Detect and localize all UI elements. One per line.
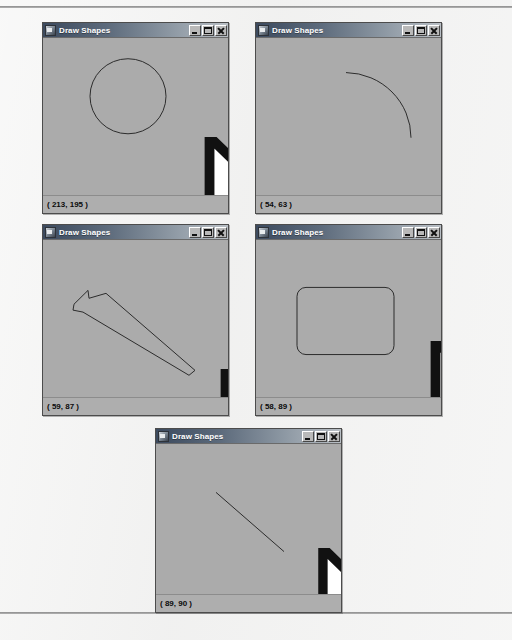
titlebar[interactable]: Draw Shapes [156,429,341,444]
window-controls [189,227,227,238]
close-icon[interactable] [215,25,227,36]
coordinates-label: ( 59, 87 ) [43,398,79,415]
mouse-cursor [409,134,441,196]
drawing-canvas[interactable] [256,241,441,398]
window-title: Draw Shapes [59,23,189,38]
window-controls [302,431,340,442]
coordinates-label: ( 54, 63 ) [256,196,292,213]
window-title: Draw Shapes [272,225,402,240]
maximize-icon[interactable] [315,431,327,442]
shape-polygon [73,290,195,375]
coordinates-label: ( 89, 90 ) [156,595,192,612]
statusbar: ( 54, 63 ) [256,195,441,213]
shape-line [216,492,284,551]
titlebar[interactable]: Draw Shapes [256,23,441,38]
window-title: Draw Shapes [172,429,302,444]
mouse-cursor [171,137,228,196]
drawing-canvas[interactable] [256,39,441,196]
statusbar: ( 58, 89 ) [256,397,441,415]
minimize-icon[interactable] [302,431,314,442]
close-icon[interactable] [428,227,440,238]
close-icon[interactable] [215,227,227,238]
window-circle[interactable]: Draw Shapes ( 213, 195 ) [42,22,229,214]
maximize-icon[interactable] [415,25,427,36]
titlebar[interactable]: Draw Shapes [43,225,228,240]
maximize-icon[interactable] [415,227,427,238]
statusbar: ( 89, 90 ) [156,594,341,612]
minimize-icon[interactable] [189,227,201,238]
drawing-canvas[interactable] [43,241,228,398]
app-icon [45,227,56,238]
window-arc[interactable]: Draw Shapes ( 54, 63 ) [255,22,442,214]
window-title: Draw Shapes [59,225,189,240]
maximize-icon[interactable] [202,25,214,36]
mouse-cursor [397,341,441,398]
minimize-icon[interactable] [402,25,414,36]
minimize-icon[interactable] [189,25,201,36]
shape-circle [90,59,166,134]
app-icon [158,431,169,442]
page-rule-top [0,6,512,8]
statusbar: ( 59, 87 ) [43,397,228,415]
mouse-cursor [187,369,228,398]
window-controls [402,25,440,36]
window-rounded-rect[interactable]: Draw Shapes ( 58, 89 ) [255,224,442,416]
statusbar: ( 213, 195 ) [43,195,228,213]
window-polygon[interactable]: Draw Shapes ( 59, 87 ) [42,224,229,416]
coordinates-label: ( 58, 89 ) [256,398,292,415]
minimize-icon[interactable] [402,227,414,238]
window-line[interactable]: Draw Shapes ( 89, 90 ) [155,428,342,613]
window-title: Draw Shapes [272,23,402,38]
drawing-canvas[interactable] [156,445,341,595]
app-icon [45,25,56,36]
mouse-cursor [282,548,341,595]
shape-rounded-rectangle [297,287,394,354]
window-controls [189,25,227,36]
window-controls [402,227,440,238]
close-icon[interactable] [328,431,340,442]
maximize-icon[interactable] [202,227,214,238]
app-icon [258,25,269,36]
titlebar[interactable]: Draw Shapes [43,23,228,38]
titlebar[interactable]: Draw Shapes [256,225,441,240]
drawing-canvas[interactable] [43,39,228,196]
shape-arc [346,73,411,138]
coordinates-label: ( 213, 195 ) [43,196,88,213]
app-icon [258,227,269,238]
close-icon[interactable] [428,25,440,36]
